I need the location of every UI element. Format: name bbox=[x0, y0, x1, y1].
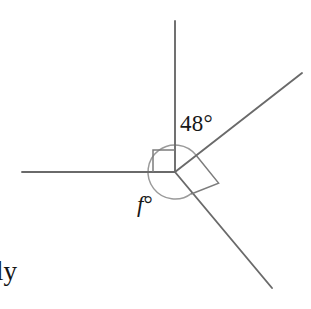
ray-lower-right bbox=[175, 172, 272, 288]
angle-diagram-figure: 48° f° ly bbox=[0, 0, 311, 309]
right-angle-marker-between-diagonals bbox=[191, 156, 218, 194]
angle-label-f-degrees: f° bbox=[137, 193, 153, 216]
page-text-fragment: ly bbox=[0, 258, 17, 285]
angle-diagram-canvas bbox=[0, 0, 311, 309]
angle-label-48-degrees: 48° bbox=[180, 112, 213, 135]
degree-symbol-icon: ° bbox=[143, 192, 152, 217]
